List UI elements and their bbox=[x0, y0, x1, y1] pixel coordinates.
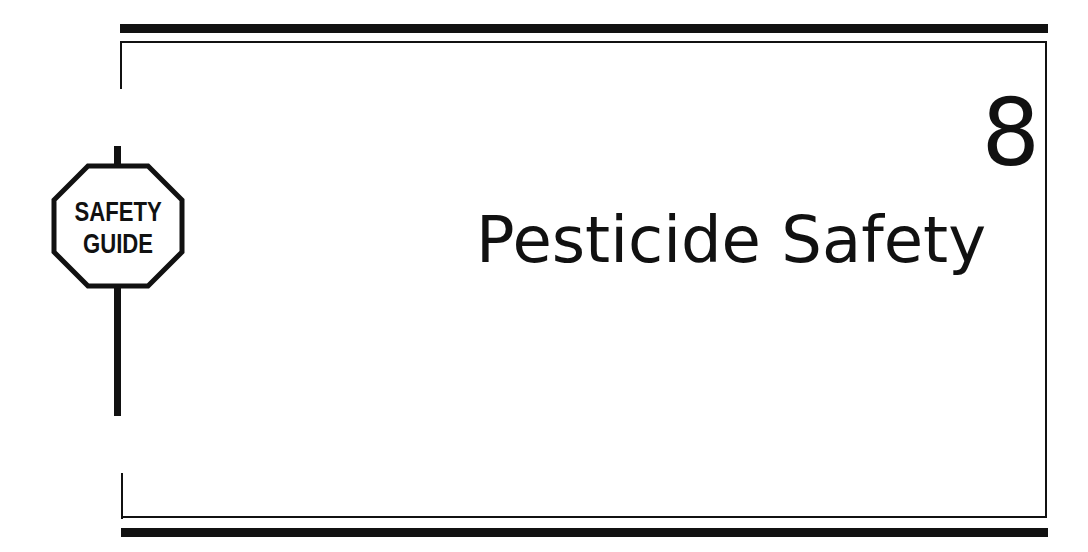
bottom-thin-rule bbox=[121, 516, 1047, 518]
left-lower-rule bbox=[121, 473, 123, 519]
top-thick-rule bbox=[120, 24, 1048, 33]
top-thin-rule bbox=[120, 41, 1047, 43]
octagon-sign-icon: SAFETY GUIDE bbox=[50, 146, 186, 416]
sign-line-2: GUIDE bbox=[83, 229, 153, 259]
chapter-number: 8 bbox=[981, 88, 1040, 180]
sign-line-1: SAFETY bbox=[74, 197, 162, 227]
chapter-title: Pesticide Safety bbox=[476, 208, 986, 272]
bottom-thick-rule bbox=[121, 528, 1048, 537]
left-upper-rule bbox=[120, 41, 122, 89]
right-rule bbox=[1045, 41, 1047, 517]
